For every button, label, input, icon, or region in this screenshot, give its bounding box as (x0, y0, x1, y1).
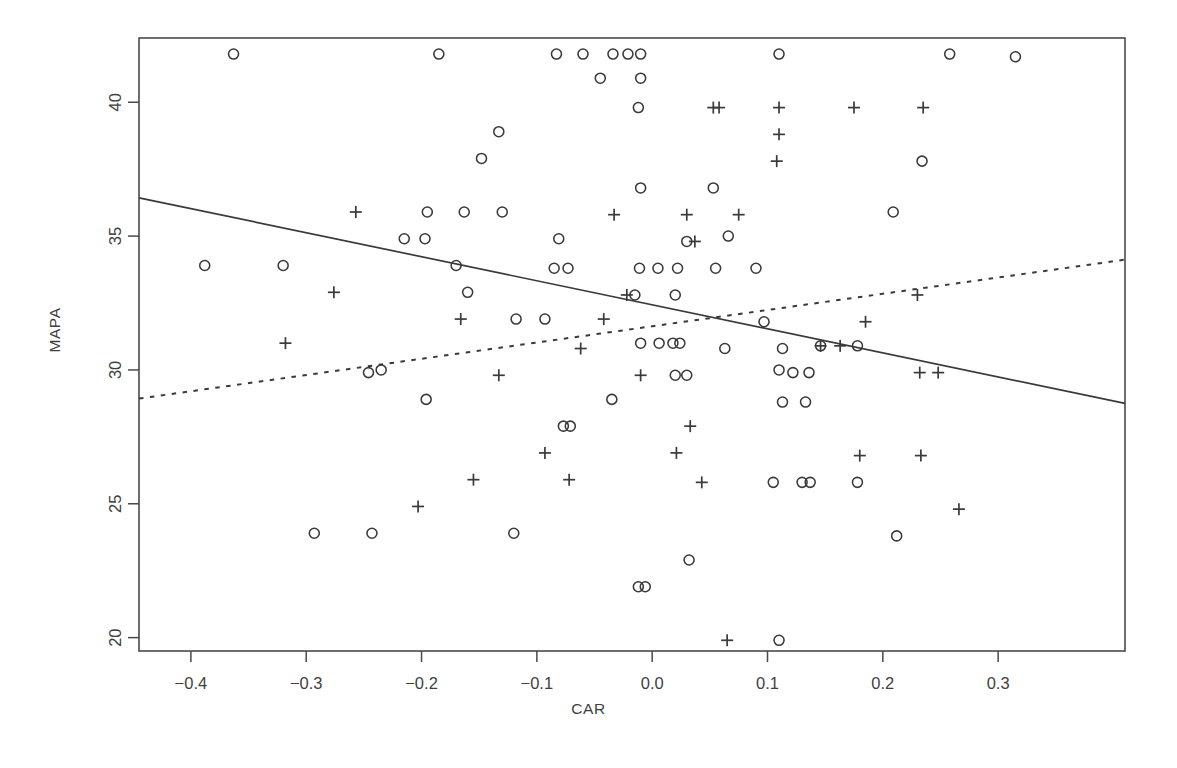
data-point-circle (422, 207, 432, 217)
data-point-circle (777, 344, 787, 354)
x-tick-label: 0.1 (756, 674, 779, 692)
data-point-circle (708, 183, 718, 193)
data-point-circle (768, 477, 778, 487)
data-point-circle (451, 261, 461, 271)
data-point-circle (917, 156, 927, 166)
data-point-plus (713, 102, 725, 114)
x-tick-label: 0.3 (987, 674, 1010, 692)
data-point-circle (363, 368, 373, 378)
data-point-circle (774, 635, 784, 645)
data-point-circle (554, 234, 564, 244)
x-axis-title: CAR (0, 700, 1177, 718)
data-point-circle (636, 49, 646, 59)
data-point-plus (854, 450, 866, 462)
data-point-circle (608, 49, 618, 59)
data-point-plus (467, 474, 479, 486)
data-point-plus (455, 313, 467, 325)
data-point-plus (412, 500, 424, 512)
regression-lines (139, 198, 1125, 404)
data-point-plus (953, 503, 965, 515)
data-point-circle (653, 263, 663, 273)
data-point-circle (278, 261, 288, 271)
data-point-circle (1010, 52, 1020, 62)
data-point-plus (834, 340, 846, 352)
data-points (200, 49, 1021, 646)
x-tick-label: 0.0 (641, 674, 664, 692)
data-point-circle (367, 528, 377, 538)
data-point-circle (892, 531, 902, 541)
y-axis-title: MAPA (46, 200, 64, 460)
data-point-circle (309, 528, 319, 538)
data-point-plus (635, 369, 647, 381)
data-point-plus (932, 367, 944, 379)
data-point-circle (675, 338, 685, 348)
data-point-circle (578, 49, 588, 59)
data-point-circle (654, 338, 664, 348)
data-point-circle (759, 317, 769, 327)
data-point-plus (773, 102, 785, 114)
data-point-circle (751, 263, 761, 273)
data-point-circle (551, 49, 561, 59)
data-point-plus (279, 337, 291, 349)
data-point-circle (673, 263, 683, 273)
y-tick-label: 20 (106, 628, 124, 646)
data-point-plus (575, 343, 587, 355)
dashed-regression-line (139, 260, 1125, 399)
data-point-plus (721, 634, 733, 646)
data-point-circle (494, 127, 504, 137)
y-tick-label: 35 (106, 227, 124, 245)
data-point-circle (888, 207, 898, 217)
data-point-circle (636, 338, 646, 348)
data-point-circle (777, 397, 787, 407)
x-axis: −0.4−0.3−0.2−0.10.00.10.20.3 (175, 651, 1010, 692)
data-point-circle (421, 394, 431, 404)
data-point-circle (540, 314, 550, 324)
data-point-circle (774, 49, 784, 59)
data-point-circle (549, 263, 559, 273)
data-point-circle (420, 234, 430, 244)
data-point-circle (670, 370, 680, 380)
data-point-plus (608, 209, 620, 221)
data-point-plus (493, 369, 505, 381)
data-point-circle (682, 370, 692, 380)
data-point-circle (607, 394, 617, 404)
x-tick-label: −0.3 (290, 674, 323, 692)
data-point-circle (852, 477, 862, 487)
data-point-plus (848, 102, 860, 114)
data-point-circle (711, 263, 721, 273)
data-point-circle (801, 397, 811, 407)
data-point-circle (434, 49, 444, 59)
solid-regression-line (139, 198, 1125, 404)
scatter-plot-figure: −0.4−0.3−0.2−0.10.00.10.20.3 2025303540 … (0, 0, 1177, 768)
data-point-plus (915, 450, 927, 462)
data-point-circle (633, 103, 643, 113)
data-point-circle (852, 341, 862, 351)
data-point-circle (229, 49, 239, 59)
data-point-circle (565, 421, 575, 431)
data-point-circle (497, 207, 507, 217)
y-axis: 2025303540 (106, 93, 139, 647)
data-point-plus (773, 128, 785, 140)
data-point-circle (459, 207, 469, 217)
data-point-circle (595, 73, 605, 83)
data-point-circle (804, 368, 814, 378)
data-point-plus (539, 447, 551, 459)
plot-frame (139, 38, 1125, 651)
data-point-circle (463, 287, 473, 297)
data-point-plus (328, 286, 340, 298)
x-tick-label: −0.2 (405, 674, 438, 692)
data-point-plus (860, 316, 872, 328)
data-point-circle (399, 234, 409, 244)
data-point-circle (636, 73, 646, 83)
y-tick-label: 30 (106, 361, 124, 379)
x-tick-label: −0.4 (175, 674, 208, 692)
data-point-plus (911, 289, 923, 301)
data-point-circle (509, 528, 519, 538)
x-tick-label: −0.1 (521, 674, 554, 692)
y-tick-label: 25 (106, 495, 124, 513)
data-point-plus (563, 474, 575, 486)
data-point-circle (511, 314, 521, 324)
data-point-circle (945, 49, 955, 59)
data-point-plus (914, 367, 926, 379)
data-point-plus (684, 420, 696, 432)
